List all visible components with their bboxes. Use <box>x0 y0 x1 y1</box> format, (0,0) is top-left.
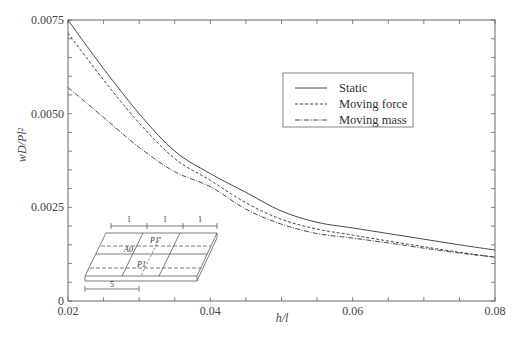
x-tick-label: 0.06 <box>342 304 363 318</box>
point-label: A0 <box>123 245 133 254</box>
series-static <box>68 20 495 250</box>
line-chart: 0.020.040.060.0800.00250.00500.0075 h/l … <box>0 0 518 344</box>
load-label-upper: P1' <box>149 236 161 245</box>
span-label-2: 1 <box>163 215 167 224</box>
y-axis-label: wD/Pl² <box>15 127 29 162</box>
plot-frame <box>68 20 495 301</box>
legend: StaticMoving forceMoving mass <box>283 73 413 127</box>
load-label-lower: P1 <box>136 260 146 269</box>
offset-label: 5 <box>110 280 114 289</box>
series-lines <box>68 20 495 257</box>
span-label-3: 1 <box>198 215 202 224</box>
axis-ticks <box>68 20 495 301</box>
x-tick-label: 0.04 <box>200 304 221 318</box>
y-tick-label: 0.0025 <box>31 200 64 214</box>
inset-plate-diagram <box>85 223 217 292</box>
series-moving-force <box>68 33 495 257</box>
x-axis-label: h/l <box>276 311 289 325</box>
span-label-1: 1 <box>127 215 131 224</box>
y-tick-label: 0.0075 <box>31 13 64 27</box>
grid-line <box>159 233 180 276</box>
y-tick-label: 0.0050 <box>31 107 64 121</box>
tick-labels: 0.020.040.060.0800.00250.00500.0075 <box>31 13 506 318</box>
x-tick-label: 0.08 <box>485 304 506 318</box>
legend-label: Moving force <box>339 97 408 111</box>
grid-line <box>122 233 143 276</box>
y-tick-label: 0 <box>58 294 64 308</box>
legend-label: Moving mass <box>339 113 407 127</box>
series-moving-mass <box>68 87 495 257</box>
legend-label: Static <box>339 81 368 95</box>
